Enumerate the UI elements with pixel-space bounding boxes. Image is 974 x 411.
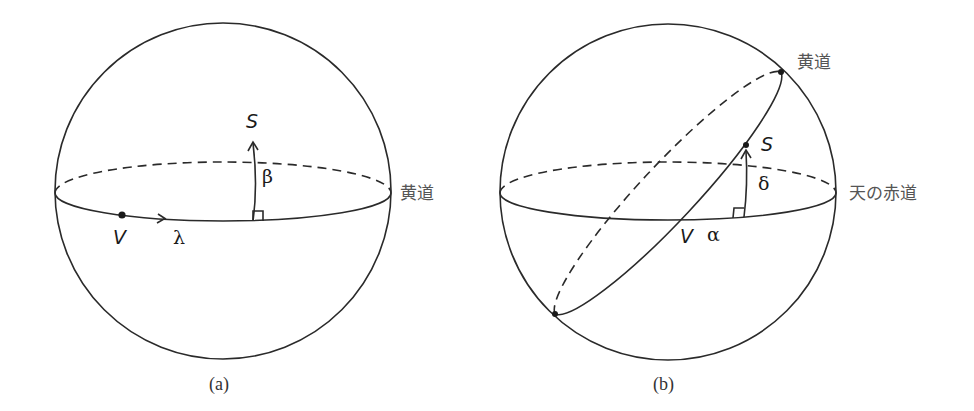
ecliptic-back-arc-a [55, 162, 391, 193]
label-delta: δ [758, 172, 769, 194]
equator-back-arc [500, 162, 836, 193]
diagram-canvas: S β V λ 黄道 (a) S δ V α 黄道 天の赤道 (b) [0, 0, 974, 411]
vernal-point-dot-a [118, 211, 125, 218]
label-alpha: α [707, 223, 720, 245]
beta-arc [253, 143, 256, 221]
label-lambda: λ [173, 226, 185, 248]
label-ecliptic-a: 黄道 [400, 183, 434, 203]
caption-a: (a) [209, 374, 229, 395]
star-s-dot-b [743, 142, 749, 148]
ecliptic-front-arc-b [555, 72, 782, 315]
celestial-sphere-a [55, 23, 391, 359]
label-s-b: S [761, 133, 773, 155]
ecliptic-node-dot-top [778, 69, 784, 75]
ecliptic-back-arc-b [554, 71, 781, 314]
label-celestial-equator: 天の赤道 [849, 183, 917, 203]
ecliptic-front-arc-a [55, 193, 391, 221]
figure-a: S β V λ 黄道 (a) [55, 23, 434, 395]
ecliptic-node-dot-bottom [552, 311, 558, 317]
delta-arc [744, 151, 747, 217]
label-v-a: V [113, 226, 128, 248]
label-s-a: S [246, 110, 258, 132]
equator-front-arc [500, 193, 836, 220]
label-v-b: V [680, 225, 695, 247]
label-ecliptic-b: 黄道 [797, 52, 831, 72]
figure-b: S δ V α 黄道 天の赤道 (b) [500, 24, 917, 395]
label-beta: β [262, 165, 273, 187]
caption-b: (b) [653, 374, 674, 395]
celestial-sphere-b [500, 24, 836, 360]
